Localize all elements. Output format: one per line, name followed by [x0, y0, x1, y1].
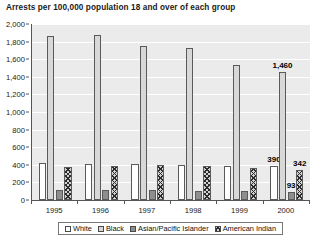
x-tick-label: 1996: [92, 206, 109, 215]
legend-label: White: [73, 224, 92, 233]
bar: [149, 190, 156, 200]
x-tick-label: 1997: [138, 206, 155, 215]
bar: [111, 166, 118, 200]
bar: [241, 191, 248, 200]
legend-swatch-icon: [215, 226, 221, 232]
bar: [224, 166, 231, 200]
bars-layer: 3901,46093342: [32, 24, 310, 200]
y-tick-mark: [26, 129, 29, 130]
y-tick-label: 800: [12, 125, 25, 134]
chart-title: Arrests per 100,000 population 18 and ov…: [6, 3, 235, 12]
x-axis: 199519961997199819992000: [31, 201, 309, 217]
bar: [131, 164, 138, 200]
y-tick-label: 1,200: [6, 90, 25, 99]
bar: [186, 48, 193, 200]
bar: [56, 190, 63, 200]
bar-value-label: 93: [287, 181, 296, 190]
legend-label: Asian/Pacific Islander: [138, 224, 209, 233]
x-tick-mark: [31, 201, 32, 204]
bar: [140, 46, 147, 200]
bar: [47, 36, 54, 200]
x-tick-mark: [77, 201, 78, 204]
legend-swatch-icon: [98, 226, 104, 232]
bar: [102, 190, 109, 200]
bar-group: [78, 24, 124, 200]
y-tick-mark: [26, 164, 29, 165]
y-tick-mark: [26, 94, 29, 95]
bar: [250, 168, 257, 200]
bar: [94, 35, 101, 200]
bar: [203, 166, 210, 200]
x-tick-label: 1995: [46, 206, 63, 215]
bar: [195, 191, 202, 200]
x-tick-label: 1999: [231, 206, 248, 215]
y-tick-mark: [26, 41, 29, 42]
legend-label: Black: [106, 224, 124, 233]
y-axis: 02004006008001,0001,2001,4001,6001,8002,…: [0, 24, 29, 200]
x-tick-label: 1998: [185, 206, 202, 215]
x-tick-mark: [170, 201, 171, 204]
legend-item-asian-pacific-islander[interactable]: Asian/Pacific Islander: [130, 224, 209, 233]
bar: [64, 167, 71, 200]
chart-figure: Arrests per 100,000 population 18 and ov…: [0, 0, 312, 243]
bar: [39, 163, 46, 200]
legend-label: American Indian: [223, 224, 276, 233]
bar-value-label: 342: [293, 159, 306, 168]
bar-group: 3901,46093342: [264, 24, 310, 200]
y-tick-label: 1,800: [6, 37, 25, 46]
y-tick-label: 0: [21, 196, 25, 205]
legend-swatch-icon: [65, 226, 71, 232]
y-tick-mark: [26, 76, 29, 77]
y-tick-label: 1,600: [6, 55, 25, 64]
y-tick-mark: [26, 147, 29, 148]
y-tick-label: 200: [12, 178, 25, 187]
x-tick-mark: [263, 201, 264, 204]
bar: [233, 65, 240, 200]
legend-item-white[interactable]: White: [65, 224, 92, 233]
x-tick-mark: [216, 201, 217, 204]
legend-item-black[interactable]: Black: [98, 224, 124, 233]
plot-area: 3901,46093342: [31, 24, 310, 201]
chart-legend: WhiteBlackAsian/Pacific IslanderAmerican…: [58, 222, 283, 235]
y-tick-label: 1,400: [6, 72, 25, 81]
bar-group: [171, 24, 217, 200]
x-tick-label: 2000: [277, 206, 294, 215]
y-tick-mark: [26, 182, 29, 183]
bar: [296, 170, 303, 200]
x-tick-mark: [309, 201, 310, 204]
bar: [270, 166, 277, 200]
y-tick-label: 600: [12, 143, 25, 152]
bar-group: [217, 24, 263, 200]
y-tick-label: 400: [12, 160, 25, 169]
y-tick-mark: [26, 24, 29, 25]
bar: [85, 164, 92, 200]
bar: [279, 72, 286, 200]
legend-swatch-icon: [130, 226, 136, 232]
bar: [288, 192, 295, 200]
x-tick-mark: [124, 201, 125, 204]
bar-group: [125, 24, 171, 200]
bar-value-label: 1,460: [273, 61, 293, 70]
bar: [178, 165, 185, 200]
bar: [157, 165, 164, 200]
bar-group: [32, 24, 78, 200]
y-tick-mark: [26, 59, 29, 60]
y-tick-label: 1,000: [6, 108, 25, 117]
legend-item-american-indian[interactable]: American Indian: [215, 224, 276, 233]
y-tick-mark: [26, 112, 29, 113]
y-tick-label: 2,000: [6, 20, 25, 29]
y-tick-mark: [26, 200, 29, 201]
